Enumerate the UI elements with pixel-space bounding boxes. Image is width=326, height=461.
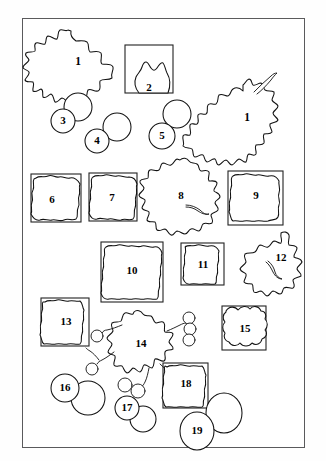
shape-1-variant-label: 1 (244, 111, 250, 123)
shape-9-outline: 9 (228, 171, 283, 225)
shape-1-outline: 1 (23, 30, 113, 103)
shape-14-label: 14 (136, 337, 148, 349)
shape-14-branch-right (167, 323, 186, 331)
shape-14-branch-bottom (141, 368, 149, 387)
shape-13-label: 13 (61, 315, 73, 327)
shape-6-label: 6 (49, 193, 55, 205)
shape-16-outline: 16 (51, 374, 105, 415)
shape-4-label: 4 (94, 134, 100, 146)
shape-14-node-right-mid (184, 323, 196, 335)
shape-17-outline: 17 (115, 396, 156, 432)
shape-8-outline: 8 (139, 158, 220, 235)
shape-12-label: 12 (276, 251, 288, 263)
shape-12-outline: 12 (240, 232, 302, 296)
shape-1-variant-outline: 1 (183, 73, 278, 165)
shape-4-outline: 4 (85, 113, 131, 153)
shape-16-label: 16 (60, 381, 72, 393)
shape-14-branch-left-lower (97, 352, 114, 364)
shape-10-outline: 10 (101, 242, 163, 302)
shape-1-label: 1 (75, 55, 81, 67)
shape-19-label: 19 (192, 424, 204, 436)
shape-14-node-bottom-left (118, 378, 132, 392)
shape-17-label: 17 (122, 401, 134, 413)
shape-15-label: 15 (240, 322, 252, 334)
shape-8-label: 8 (178, 189, 184, 201)
shape-9-label: 9 (253, 189, 259, 201)
shape-6-outline: 6 (31, 174, 81, 222)
shape-5-label: 5 (159, 129, 165, 141)
shape-11-outline: 11 (181, 243, 224, 285)
shape-14-node-bottom-mid (131, 384, 145, 398)
shape-11-label: 11 (198, 258, 208, 270)
shape-14-node-left-upper (91, 330, 103, 342)
shape-7-outline: 7 (89, 173, 137, 221)
shape-18-outline: 18 (162, 363, 208, 408)
shape-14-branch-left-stem (86, 348, 99, 360)
shape-7-label: 7 (109, 191, 115, 203)
shape-2-outline: 2 (125, 45, 173, 93)
shape-2-label: 2 (146, 81, 152, 93)
shape-3-label: 3 (60, 114, 66, 126)
shape-drawing-canvas: 1 2 1 3 4 5 (0, 0, 326, 461)
shape-morphology-plate: 1 2 1 3 4 5 (0, 0, 326, 461)
shape-14-node-right-low (183, 334, 195, 346)
shape-10-label: 10 (127, 264, 139, 276)
shape-15-outline: 15 (222, 306, 267, 350)
shape-14-node-left-lower (86, 363, 98, 375)
shape-13-outline: 13 (40, 298, 89, 346)
shape-18-label: 18 (181, 377, 193, 389)
shape-14-node-right-top (183, 312, 195, 324)
